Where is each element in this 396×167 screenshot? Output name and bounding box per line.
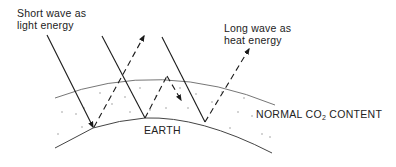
- long-wave-label-line1: Long wave as: [224, 22, 291, 34]
- earth-label: EARTH: [144, 124, 181, 136]
- co2-content-label: NORMAL CO2 CONTENT: [256, 108, 382, 120]
- atmosphere-boundary: [55, 80, 275, 105]
- long-wave-ray-2: [145, 76, 167, 118]
- short-wave-ray-2: [102, 36, 145, 118]
- co2-label-suffix: CONTENT: [326, 108, 382, 120]
- long-wave-label-line2: heat energy: [224, 34, 291, 46]
- co2-label-prefix: NORMAL CO: [256, 108, 322, 120]
- short-wave-label: Short wave as light energy: [17, 7, 86, 31]
- long-wave-ray-1: [94, 36, 144, 127]
- short-wave-label-line1: Short wave as: [17, 7, 86, 19]
- long-wave-label: Long wave as heat energy: [224, 22, 291, 46]
- short-wave-ray-1: [47, 35, 93, 127]
- reflected-heat-ray: [167, 76, 181, 100]
- short-wave-label-line2: light energy: [17, 19, 86, 31]
